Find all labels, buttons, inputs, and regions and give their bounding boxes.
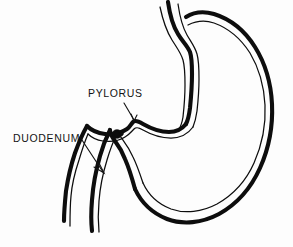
label-duodenum: DUODENUM	[13, 133, 80, 144]
stomach-diagram: PYLORUS DUODENUM	[0, 0, 293, 247]
esophagus-outer-wall-left	[168, 2, 192, 124]
stomach-inner-lining-greater-curvature	[143, 21, 265, 211]
ulcer-lesion-icon	[112, 130, 123, 139]
label-pylorus: PYLORUS	[88, 88, 143, 99]
duodenum-fold-crease	[91, 130, 110, 231]
anatomy-illustration	[0, 0, 293, 247]
stomach-outer-wall-greater-curvature	[135, 12, 272, 222]
